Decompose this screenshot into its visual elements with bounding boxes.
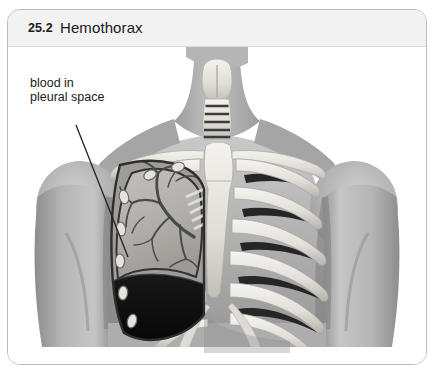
upper-arm-right [320, 184, 399, 347]
upper-arm-left [35, 184, 114, 347]
illustration-area: blood in pleural space [8, 47, 426, 365]
anatomical-illustration [8, 47, 426, 365]
lung-cutaway [117, 169, 203, 279]
airway-group [202, 59, 232, 139]
pleural-cutaway-group [108, 161, 206, 353]
figure-panel: 25.2 Hemothorax [7, 9, 427, 365]
figure-title-bar: 25.2 Hemothorax [8, 10, 426, 47]
figure-number: 25.2 [28, 21, 53, 35]
figure-title: Hemothorax [60, 19, 143, 36]
